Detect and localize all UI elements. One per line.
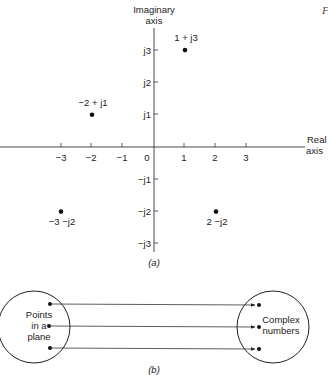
origin-label: 0 <box>144 152 149 163</box>
real-axis-label-line2: axis <box>306 145 323 156</box>
imaginary-tick-label: j2 <box>143 77 151 88</box>
left-set-label-line1: Points <box>26 309 53 320</box>
real-tick-label: −2 <box>86 152 97 163</box>
point-label: −2 + j1 <box>78 97 107 108</box>
right-set-label-line1: Complex <box>262 314 300 325</box>
real-tick-label: 3 <box>243 152 248 163</box>
mapping-arrow <box>49 326 255 327</box>
point-marker <box>214 209 219 214</box>
imaginary-tick-label: j1 <box>143 109 151 120</box>
real-tick-label: −1 <box>117 152 128 163</box>
imaginary-axis-ticks: j3j2j1−j1−j2−j3 <box>138 45 158 249</box>
mapping-arrow <box>50 348 255 349</box>
plotted-points: 1 + j3−2 + j1−3 −j22 −j2 <box>49 32 228 227</box>
real-tick-label: −3 <box>56 152 67 163</box>
imaginary-tick-label: j3 <box>143 45 151 56</box>
mapping-arrows <box>47 302 261 351</box>
point-marker <box>90 112 95 117</box>
real-axis-ticks: −3−2−1123 <box>56 143 249 163</box>
imaginary-axis-label-line1: Imaginary <box>133 4 175 15</box>
right-set-label-line2: numbers <box>263 325 300 336</box>
mapping-diagram: Points in a plane Complex numbers (b) <box>0 291 309 375</box>
complex-plane-figure: F Imaginary axis Real axis −3−2−1123 0 j… <box>0 0 328 375</box>
complex-plane: Imaginary axis Real axis −3−2−1123 0 j3j… <box>0 4 327 268</box>
caption-a: (a) <box>148 257 160 268</box>
imaginary-tick-label: −j2 <box>138 206 151 217</box>
point-label: −3 −j2 <box>49 216 75 227</box>
point-label: 2 −j2 <box>207 216 228 227</box>
right-point <box>257 325 261 329</box>
imaginary-axis-label-line2: axis <box>146 15 163 26</box>
caption-b: (b) <box>148 364 160 375</box>
left-set-label-line3: plane <box>27 331 50 342</box>
corner-mark: F <box>321 4 328 16</box>
imaginary-tick-label: −j3 <box>138 238 151 249</box>
left-set-label-line2: in a <box>31 320 47 331</box>
real-tick-label: 2 <box>212 152 217 163</box>
right-point <box>257 347 261 351</box>
point-marker <box>59 209 64 214</box>
point-marker <box>183 48 188 53</box>
right-point <box>257 303 261 307</box>
imaginary-tick-label: −j1 <box>138 174 151 185</box>
mapping-arrow <box>50 304 255 305</box>
real-axis-label-line1: Real <box>307 134 327 145</box>
real-tick-label: 1 <box>181 152 186 163</box>
point-label: 1 + j3 <box>174 32 198 43</box>
